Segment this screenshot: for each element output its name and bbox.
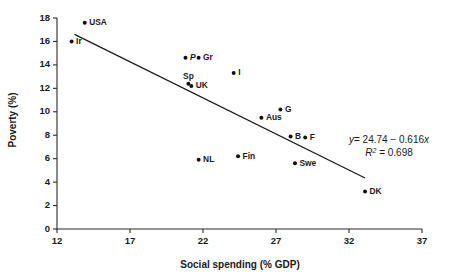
regression-equation-annotation: y= 24.74 − 0.616xR2 = 0.698 [348,134,430,158]
y-axis-ticks: 024681012141618 [39,12,57,234]
x-tick-label: 32 [344,235,355,246]
x-axis-title: Social spending (% GDP) [180,259,299,270]
regression-equation-text: y= 24.74 − 0.616x [348,134,430,145]
data-point-label-aus: Aus [266,112,282,122]
scatter-chart: 024681012141618 121722273237 USAIrPGrISp… [0,0,454,277]
data-point-g [278,107,282,111]
data-point-b [289,134,293,138]
x-tick-label: 17 [125,235,136,246]
data-point-gr [197,56,201,60]
y-tick-label: 6 [45,152,50,163]
data-point-uk [189,84,193,88]
y-tick-label: 14 [39,58,50,69]
data-points: USAIrPGrISpUKGAusBFFinNLSweDK [70,17,382,196]
data-point-label-usa: USA [89,17,107,27]
data-point-p [183,56,187,60]
data-point-f [303,136,307,140]
y-tick-label: 0 [45,223,50,234]
data-point-label-dk: DK [370,186,382,196]
y-tick-label: 8 [45,129,50,140]
x-tick-label: 37 [417,235,428,246]
data-point-dk [363,189,367,193]
data-point-label-uk: UK [196,80,208,90]
data-point-fin [236,154,240,158]
data-point-aus [259,116,263,120]
chart-canvas: 024681012141618 121722273237 USAIrPGrISp… [0,0,454,277]
data-point-label-nl: NL [203,154,214,164]
y-axis-title: Poverty (%) [7,92,18,147]
y-tick-label: 2 [45,199,50,210]
x-axis-ticks: 121722273237 [52,229,428,246]
data-point-ir [70,39,74,43]
data-point-label-i: I [238,67,240,77]
data-point-label-swe: Swe [299,158,316,168]
axis-spine [57,18,422,229]
data-point-usa [83,21,87,25]
data-point-label-sp: Sp [183,71,194,81]
axes [57,18,422,229]
data-point-label-g: G [285,104,292,114]
r-squared-text: R2 = 0.698 [365,147,413,159]
y-tick-label: 12 [39,82,50,93]
fit-line-segment [75,34,366,178]
data-point-i [232,71,236,75]
x-tick-label: 27 [271,235,282,246]
x-tick-label: 22 [198,235,209,246]
data-point-swe [293,161,297,165]
data-point-label-p: P [190,52,196,62]
y-tick-label: 16 [39,35,50,46]
data-point-label-f: F [310,132,315,142]
y-tick-label: 4 [45,176,51,187]
data-point-label-gr: Gr [203,52,214,62]
regression-line [75,34,366,178]
y-tick-label: 18 [39,12,50,23]
y-tick-label: 10 [39,105,50,116]
data-point-nl [197,158,201,162]
x-tick-label: 12 [52,235,63,246]
data-point-label-b: B [295,131,301,141]
data-point-label-fin: Fin [243,151,256,161]
data-point-label-ir: Ir [76,36,82,46]
